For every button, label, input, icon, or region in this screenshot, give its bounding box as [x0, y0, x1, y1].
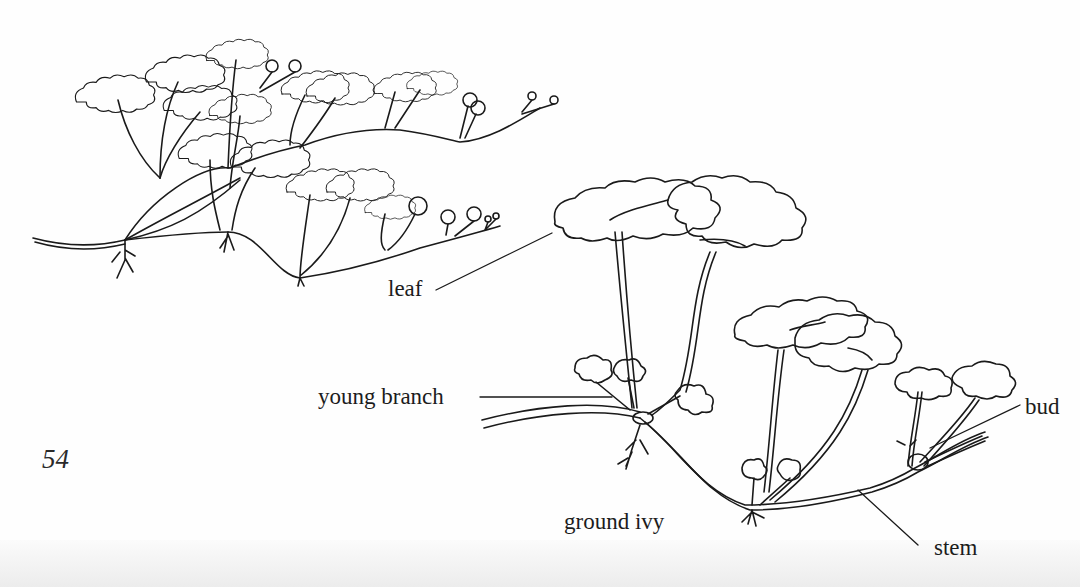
leader-line-leaf	[436, 233, 552, 290]
page-number: 54	[42, 444, 69, 475]
book-page: leaf young branch bud stem ground ivy 54	[0, 0, 1080, 587]
leader-line-stem	[858, 490, 918, 545]
label-bud: bud	[1025, 394, 1060, 420]
label-leaf: leaf	[388, 276, 422, 302]
background-plant	[33, 39, 558, 286]
foreground-plant	[482, 176, 1016, 526]
label-young-branch: young branch	[318, 384, 444, 410]
label-stem: stem	[934, 535, 977, 561]
figure-caption: ground ivy	[564, 509, 664, 535]
ground-ivy-illustration	[0, 0, 1080, 587]
